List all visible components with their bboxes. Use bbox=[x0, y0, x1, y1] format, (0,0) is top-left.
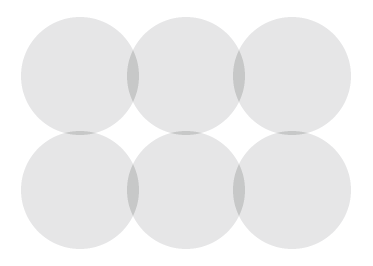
figure-container: Six overlapping circles pattern bbox=[0, 0, 373, 266]
xor-coverage-canvas bbox=[0, 0, 373, 266]
